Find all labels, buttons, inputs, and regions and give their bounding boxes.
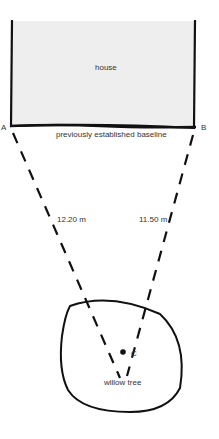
point-a-label: A — [1, 124, 6, 132]
distance-bc-label: 11.50 m — [139, 216, 167, 224]
line-a-to-c — [13, 133, 120, 378]
distance-ac-label: 12.20 m — [57, 216, 86, 224]
point-b-label: B — [201, 124, 206, 132]
baseline-label: previously established baseline — [56, 131, 167, 139]
point-c-label: C — [131, 350, 137, 358]
point-c-marker — [120, 349, 126, 355]
line-b-to-c — [127, 135, 193, 376]
house-label: house — [95, 64, 117, 72]
house-outline — [11, 20, 195, 128]
willow-tree-outline — [61, 301, 182, 412]
tree-label: willow tree — [104, 379, 141, 387]
